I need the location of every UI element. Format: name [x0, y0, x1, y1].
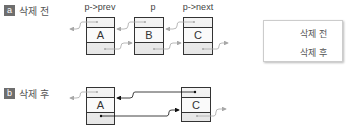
legend-item-before: 삭제 전 — [300, 27, 327, 40]
legend-item-after: 삭제 후 — [300, 46, 327, 59]
legend: 삭제 전 삭제 후 — [263, 20, 343, 62]
